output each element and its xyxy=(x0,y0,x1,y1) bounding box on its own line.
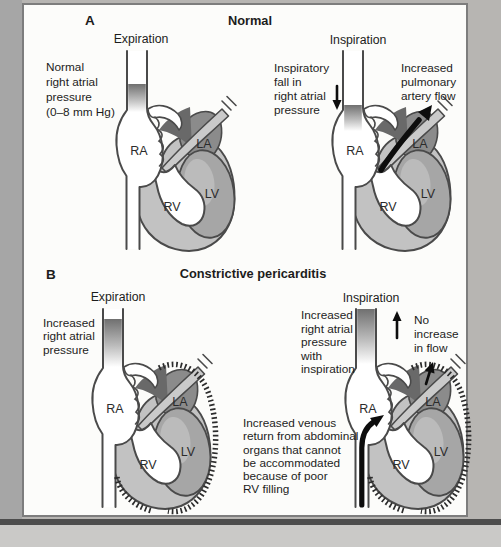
phase-label-b-inspiration: Inspiration xyxy=(343,291,400,305)
rv-label: RV xyxy=(163,200,181,214)
la-label: LA xyxy=(412,137,428,151)
blood-column-gradient xyxy=(357,309,375,364)
ra-label: RA xyxy=(106,402,124,416)
panel-a-label: A xyxy=(85,13,95,28)
phase-label-a-inspiration: Inspiration xyxy=(330,33,387,47)
annotation-increased-pa-flow: Increased pulmonary artery flow xyxy=(401,61,456,103)
lv-label: LV xyxy=(205,187,220,201)
figure-canvas: A Normal Expiration Normal right atrial … xyxy=(0,0,501,547)
annotation-increased-ra-pressure: Increased right atrial pressure xyxy=(43,317,95,357)
down-arrow-icon xyxy=(333,86,342,110)
ra-label: RA xyxy=(346,144,364,158)
blood-column-gradient xyxy=(344,105,362,131)
la-label: LA xyxy=(172,395,188,409)
panel-b-label: B xyxy=(46,267,56,282)
rv-label: RV xyxy=(392,458,410,472)
blood-column-gradient xyxy=(104,319,122,367)
la-label: LA xyxy=(425,395,441,409)
annotation-increased-ra-pressure-inspiration: Increased right atrial pressure with ins… xyxy=(301,309,355,377)
ra-label: RA xyxy=(359,402,377,416)
phase-label-b-expiration: Expiration xyxy=(91,290,146,304)
left-margin xyxy=(0,0,22,547)
panel-b-title: Constrictive pericarditis xyxy=(180,266,327,281)
panel-a-title: Normal xyxy=(228,13,272,28)
annotation-no-increase-flow: No increase in flow xyxy=(414,313,459,355)
la-label: LA xyxy=(196,137,212,151)
lv-label: LV xyxy=(421,187,436,201)
heart-diagram-b-expiration: RA RV LA LV xyxy=(86,306,216,516)
ra-label: RA xyxy=(130,144,148,158)
phase-label-a-expiration: Expiration xyxy=(114,32,169,46)
heart-diagram-a-expiration: RA RV LA LV xyxy=(110,48,240,258)
lv-label: LV xyxy=(434,445,449,459)
blood-column-gradient xyxy=(128,84,146,112)
rv-label: RV xyxy=(379,200,397,214)
up-arrow-icon xyxy=(393,311,402,338)
annotation-normal-ra-pressure: Normal right atrial pressure (0–8 mm Hg) xyxy=(46,60,115,120)
rv-label: RV xyxy=(139,458,157,472)
annotation-inspiratory-fall: Inspiratory fall in right atrial pressur… xyxy=(274,61,329,117)
bottom-margin xyxy=(0,525,501,547)
lv-label: LV xyxy=(181,445,196,459)
annotation-venous-return: Increased venous return from abdominal o… xyxy=(243,417,358,497)
